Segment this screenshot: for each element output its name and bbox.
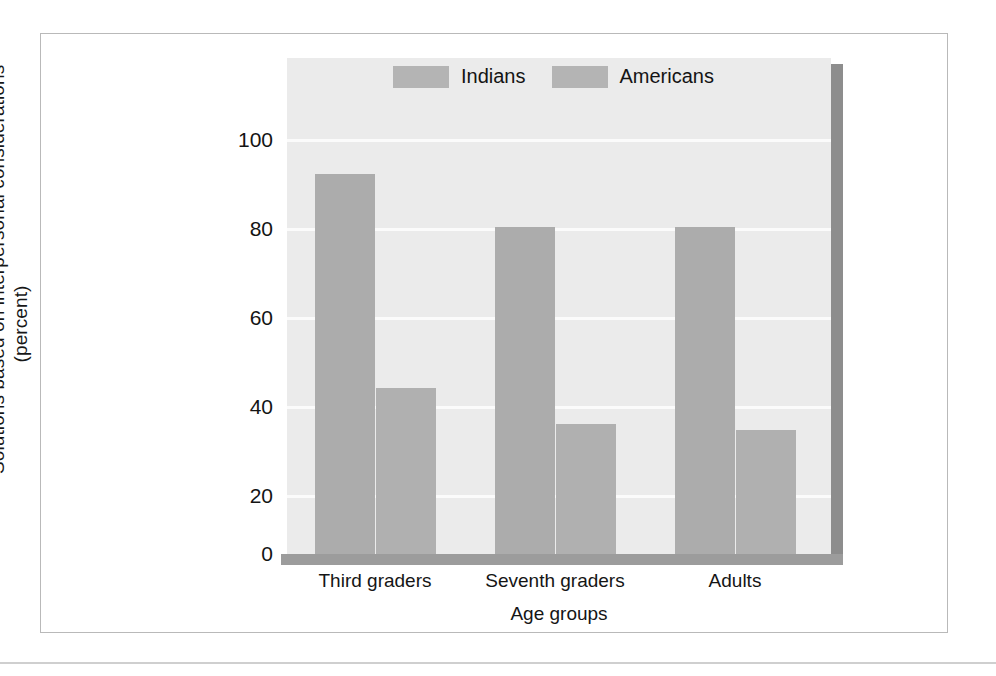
legend-label-indians: Indians — [461, 65, 526, 88]
bar-indians-third-graders — [315, 174, 375, 554]
plot-area — [287, 58, 831, 554]
y-tick-label-100: 100 — [213, 129, 273, 150]
y-tick-label-80: 80 — [213, 218, 273, 239]
x-tick-label-third-graders: Third graders — [285, 570, 465, 592]
bar-indians-seventh-graders — [495, 227, 555, 554]
legend-entry-americans: Americans — [552, 65, 714, 88]
x-tick-label-seventh-graders: Seventh graders — [465, 570, 645, 592]
bar-americans-seventh-graders — [556, 424, 616, 554]
page-bottom-rule — [0, 662, 996, 664]
figure-frame: Solutions based on interpersonal conside… — [40, 33, 948, 633]
legend-swatch-americans — [552, 66, 608, 88]
gridline-100 — [287, 139, 831, 142]
x-tick-label-adults: Adults — [645, 570, 825, 592]
y-axis-title-line-1: Solutions based on interpersonal conside… — [0, 174, 9, 474]
legend-swatch-indians — [393, 66, 449, 88]
bar-indians-adults — [675, 227, 735, 554]
bar-americans-third-graders — [376, 388, 436, 554]
y-tick-label-20: 20 — [213, 485, 273, 506]
y-axis-title: Solutions based on interpersonal conside… — [0, 174, 32, 474]
plot-panel-shadow-right — [831, 64, 843, 560]
x-axis-baseline — [281, 554, 843, 565]
y-tick-label-40: 40 — [213, 396, 273, 417]
bar-chart: Solutions based on interpersonal conside… — [41, 34, 949, 634]
y-tick-label-60: 60 — [213, 307, 273, 328]
legend-entry-indians: Indians — [393, 65, 526, 88]
y-axis-title-line-2: (percent) — [9, 174, 32, 474]
legend-label-americans: Americans — [620, 65, 714, 88]
bar-americans-adults — [736, 430, 796, 554]
chart-legend: Indians Americans — [393, 65, 714, 88]
y-tick-label-0: 0 — [213, 543, 273, 564]
x-axis-title: Age groups — [287, 603, 831, 625]
